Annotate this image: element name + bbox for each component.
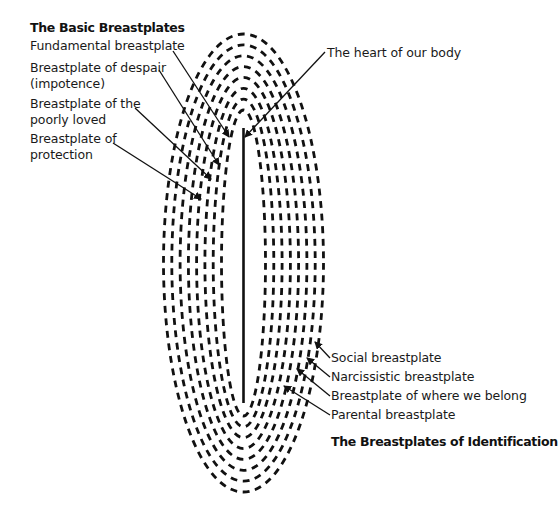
label-poorly-loved: poorly loved — [30, 112, 106, 128]
label-parental-breastplate: Parental breastplate — [331, 407, 455, 423]
identification-breastplates-heading: The Breastplates of Identification — [331, 434, 558, 450]
arrow-heart — [245, 52, 325, 137]
label-impotence: (impotence) — [30, 76, 105, 92]
label-breastplate-of-despair: Breastplate of despair — [30, 60, 166, 76]
arrow-narcissistic — [307, 358, 330, 377]
label-fundamental-breastplate: Fundamental breastplate — [30, 38, 185, 54]
basic-breastplates-heading: The Basic Breastplates — [30, 20, 185, 36]
label-breastplate-where-we-belong: Breastplate of where we belong — [331, 388, 527, 404]
arrow-fundamental — [173, 51, 229, 137]
label-heart-of-our-body: The heart of our body — [327, 45, 461, 61]
arrow-protection — [113, 143, 201, 199]
label-social-breastplate: Social breastplate — [331, 350, 441, 366]
label-breastplate-of-the: Breastplate of the — [30, 96, 141, 112]
label-narcissistic-breastplate: Narcissistic breastplate — [331, 369, 474, 385]
label-protection: protection — [30, 147, 93, 163]
label-breastplate-of: Breastplate of — [30, 131, 117, 147]
